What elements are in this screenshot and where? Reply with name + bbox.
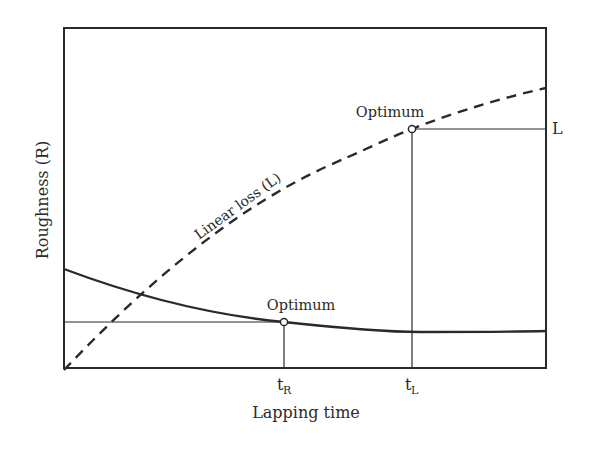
linear-loss-optimum-marker [408, 125, 415, 132]
roughness-optimum-marker [280, 318, 287, 325]
y-axis-label: Roughness (R) [33, 141, 52, 259]
linear-loss-optimum-label: Optimum [356, 104, 425, 120]
x-tick-label-t-r: t R [277, 375, 292, 397]
linear-loss-curve-label: Linear loss (L) [191, 169, 283, 242]
plot-frame [64, 28, 546, 368]
x-tick-label-t-l: t L [405, 375, 419, 397]
tick-subscript-text: R [283, 384, 292, 397]
linear-loss-level-label: L [552, 119, 563, 138]
diagram-canvas: Optimum Optimum L Linear loss (L) t R t … [0, 0, 590, 449]
roughness-vs-lapping-time-diagram: Optimum Optimum L Linear loss (L) t R t … [0, 0, 590, 449]
x-axis-label: Lapping time [252, 403, 360, 422]
tick-subscript-text: L [411, 384, 419, 397]
linear-loss-curve [64, 88, 546, 370]
roughness-optimum-label: Optimum [267, 297, 336, 313]
